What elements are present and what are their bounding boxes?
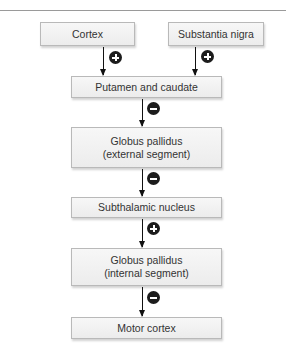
arrow-subthalamic-to-gpi bbox=[142, 219, 143, 247]
node-label: Putamen and caudate bbox=[95, 81, 198, 94]
arrow-gpi-to-motor-cortex bbox=[142, 287, 143, 316]
node-label-line1: Globus pallidus bbox=[111, 254, 183, 267]
node-gp-internal: Globus pallidus (internal segment) bbox=[71, 248, 222, 286]
plus-circle-icon bbox=[147, 222, 160, 235]
arrow-putamen-to-gpe bbox=[142, 99, 143, 126]
node-label: Motor cortex bbox=[117, 322, 175, 335]
plus-circle-icon bbox=[201, 50, 214, 63]
arrow-gpe-to-subthalamic bbox=[142, 169, 143, 196]
node-subthalamic-nucleus: Subthalamic nucleus bbox=[71, 197, 222, 218]
minus-circle-icon bbox=[147, 291, 160, 304]
plus-circle-icon bbox=[109, 51, 122, 64]
node-label-line2: (internal segment) bbox=[104, 267, 189, 280]
node-motor-cortex: Motor cortex bbox=[71, 317, 222, 339]
minus-circle-icon bbox=[147, 172, 160, 185]
minus-circle-icon bbox=[147, 102, 160, 115]
node-substantia-nigra: Substantia nigra bbox=[168, 22, 264, 46]
node-putamen-caudate: Putamen and caudate bbox=[71, 76, 222, 98]
node-gp-external: Globus pallidus (external segment) bbox=[71, 127, 222, 168]
node-label-line2: (external segment) bbox=[103, 148, 191, 161]
node-label: Cortex bbox=[72, 28, 103, 41]
top-rule bbox=[0, 10, 286, 11]
node-label: Subthalamic nucleus bbox=[98, 201, 195, 214]
node-cortex: Cortex bbox=[40, 22, 135, 46]
node-label-line1: Globus pallidus bbox=[111, 135, 183, 148]
arrow-cortex-to-putamen bbox=[103, 47, 104, 75]
node-label: Substantia nigra bbox=[178, 28, 254, 41]
arrow-substantia-nigra-to-putamen bbox=[195, 47, 196, 75]
